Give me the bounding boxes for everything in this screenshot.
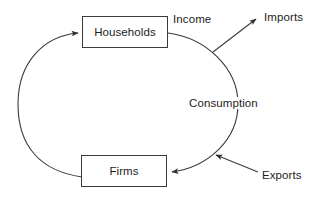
flow-arc-left-income: [18, 33, 82, 177]
flow-arrow-exports: [216, 155, 258, 172]
node-firms[interactable]: Firms: [81, 155, 167, 187]
flow-arrow-imports: [213, 19, 256, 52]
label-income: Income: [172, 13, 212, 25]
circular-flow-diagram: Households Firms Income Consumption Impo…: [0, 0, 319, 206]
node-households-label: Households: [94, 26, 156, 38]
node-households[interactable]: Households: [82, 16, 168, 48]
label-exports: Exports: [262, 169, 302, 181]
node-firms-label: Firms: [109, 165, 138, 177]
label-consumption: Consumption: [187, 97, 260, 109]
label-imports: Imports: [264, 11, 303, 23]
